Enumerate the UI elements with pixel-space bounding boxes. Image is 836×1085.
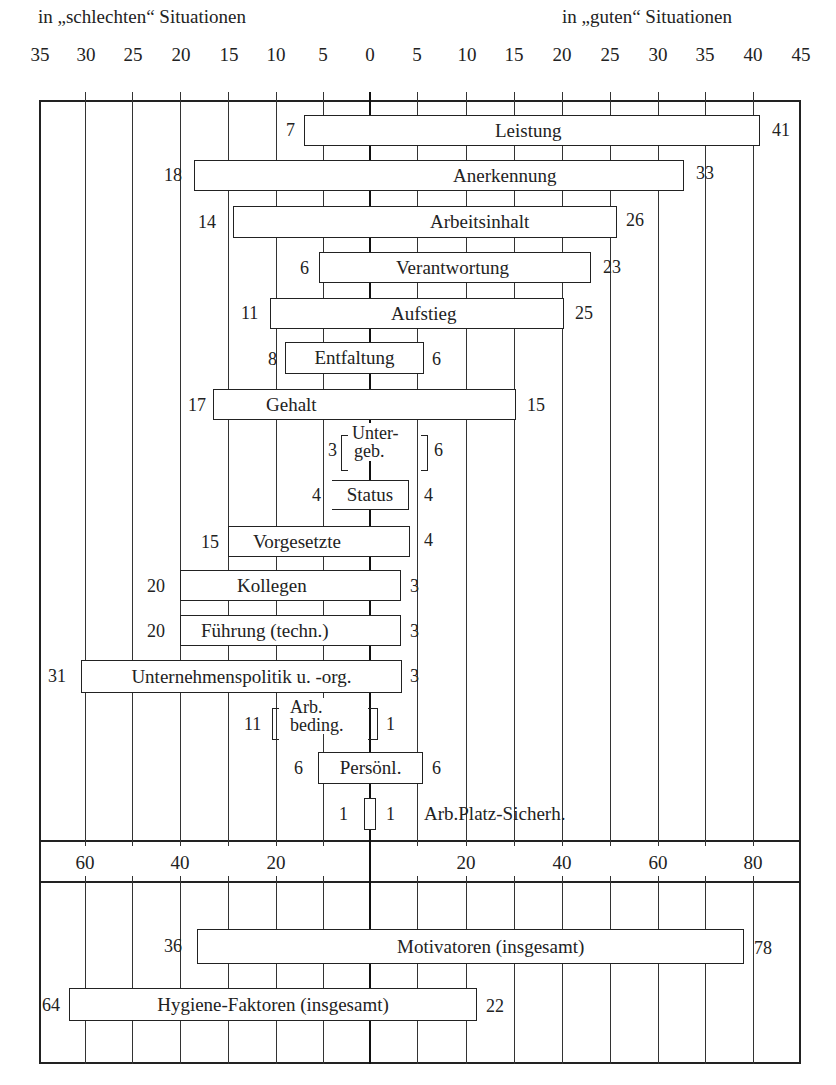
- value-bad: 8: [268, 349, 277, 370]
- value-bad: 14: [198, 212, 216, 233]
- value-bad: 6: [294, 758, 303, 779]
- tick-label: 5: [412, 44, 422, 66]
- tick-label: 40: [171, 852, 190, 874]
- bar-anerkennung: Anerkennung: [194, 160, 684, 191]
- tick-label: 80: [744, 852, 763, 874]
- value-good: 26: [626, 210, 644, 231]
- value-bad: 20: [147, 576, 165, 597]
- value-good: 33: [696, 163, 714, 184]
- value-bad: 15: [201, 532, 219, 553]
- tick-label: 35: [31, 44, 50, 66]
- value-bad: 20: [147, 621, 165, 642]
- tick-label: 20: [267, 852, 286, 874]
- header-good-situations: in „guten“ Situationen: [562, 6, 732, 28]
- tick-label: 30: [649, 44, 668, 66]
- tick-label: 20: [553, 44, 572, 66]
- tick-label: 20: [172, 44, 191, 66]
- value-bad: 64: [42, 995, 60, 1016]
- tick-label: 10: [267, 44, 286, 66]
- tick-label: 30: [77, 44, 96, 66]
- tick-label: 5: [318, 44, 328, 66]
- value-good: 22: [486, 996, 504, 1017]
- value-good: 15: [527, 395, 545, 416]
- bar-kollegen: Kollegen: [180, 570, 401, 601]
- value-good: 6: [432, 349, 441, 370]
- value-good: 6: [432, 758, 441, 779]
- bar-leistung: Leistung: [304, 115, 760, 146]
- bottom-band: [41, 842, 799, 881]
- bar-fuehrung: Führung (techn.): [180, 615, 401, 646]
- label-untergebene: Unter- geb.: [350, 423, 401, 461]
- tick-label: 0: [365, 44, 375, 66]
- value-good: 4: [424, 485, 433, 506]
- value-good: 6: [434, 440, 443, 461]
- tick-label: 60: [649, 852, 668, 874]
- tick-label: 20: [457, 852, 476, 874]
- tick-label: 15: [220, 44, 239, 66]
- label-arbeitsplatzsicherheit: Arb.Platz-Sicherh.: [424, 803, 565, 825]
- bracket-left: [272, 708, 279, 740]
- value-bad: 18: [164, 165, 182, 186]
- value-good: 25: [575, 303, 593, 324]
- band-bottom-line: [39, 881, 801, 883]
- tick-label: 40: [553, 852, 572, 874]
- tick-label: 25: [124, 44, 143, 66]
- value-bad: 11: [241, 303, 258, 324]
- value-bad: 6: [300, 258, 309, 279]
- bar-arbeitsinhalt: Arbeitsinhalt: [233, 206, 617, 238]
- value-bad: 3: [328, 440, 337, 461]
- value-good: 3: [410, 576, 419, 597]
- value-bad: 11: [244, 714, 261, 735]
- value-bad: 36: [164, 936, 182, 957]
- bar-arbeitsplatzsicherheit: [364, 798, 376, 830]
- value-bad: 17: [188, 395, 206, 416]
- value-good: 3: [410, 666, 419, 687]
- header-bad-situations: in „schlechten“ Situationen: [38, 6, 246, 28]
- bar-arbeitsbedingungen-good: [368, 708, 378, 740]
- value-good: 41: [772, 120, 790, 141]
- bar-persoenlich: Persönl.: [318, 752, 423, 784]
- tick-label: 15: [505, 44, 524, 66]
- value-bad: 4: [312, 485, 321, 506]
- bar-aufstieg: Aufstieg: [270, 298, 564, 329]
- bar-hygiene: Hygiene-Faktoren (insgesamt): [69, 988, 477, 1021]
- bar-entfaltung: Entfaltung: [285, 342, 424, 374]
- bracket-left: [341, 435, 348, 471]
- value-good: 4: [424, 530, 433, 551]
- bar-unternehmenspolitik: Unternehmenspolitik u. -org.: [81, 660, 402, 693]
- value-good: 78: [754, 938, 772, 959]
- value-good: 23: [603, 257, 621, 278]
- value-good: 3: [410, 621, 419, 642]
- bar-vorgesetzte: Vorgesetzte: [228, 526, 410, 557]
- tick-label: 40: [744, 44, 763, 66]
- value-good: 1: [386, 804, 395, 825]
- tick-label: 60: [76, 852, 95, 874]
- value-bad: 7: [286, 120, 295, 141]
- value-bad: 31: [48, 666, 66, 687]
- bar-verantwortung: Verantwortung: [319, 252, 591, 283]
- tick-label: 25: [601, 44, 620, 66]
- tick-label: 35: [696, 44, 715, 66]
- label-arbeitsbedingungen: Arb. beding.: [288, 698, 346, 734]
- bar-gehalt: Gehalt: [213, 389, 516, 420]
- bracket-right: [421, 435, 428, 471]
- bar-motivatoren: Motivatoren (insgesamt): [197, 929, 744, 964]
- value-good: 1: [386, 714, 395, 735]
- bar-status: Status: [332, 480, 409, 510]
- value-bad: 1: [339, 804, 348, 825]
- tick-label: 10: [458, 44, 477, 66]
- tick-label: 45: [792, 44, 811, 66]
